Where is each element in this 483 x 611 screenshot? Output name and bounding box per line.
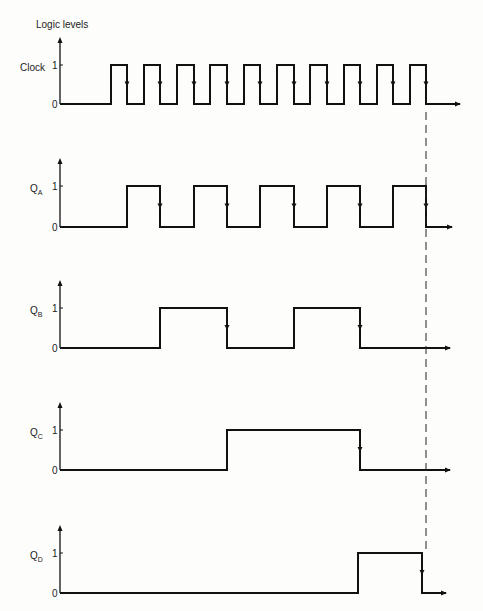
y-axis-title: Logic levels bbox=[36, 19, 88, 30]
signal-label: QC bbox=[30, 427, 43, 440]
signal-label: QD bbox=[30, 550, 43, 563]
arrow-up-icon bbox=[58, 158, 63, 164]
falling-edge-arrow-icon bbox=[358, 447, 363, 452]
signal-label: Clock bbox=[20, 62, 46, 73]
signal-qb: 10QB bbox=[30, 280, 451, 354]
arrow-right-icon bbox=[441, 591, 447, 596]
arrow-up-icon bbox=[58, 525, 63, 531]
falling-edge-arrow-icon bbox=[225, 204, 230, 209]
tick-0: 0 bbox=[52, 343, 58, 354]
falling-edge-arrow-icon bbox=[391, 82, 396, 87]
tick-0: 0 bbox=[52, 222, 58, 233]
signal-qd: 10QD bbox=[30, 525, 447, 599]
waveform bbox=[60, 186, 452, 227]
falling-edge-arrow-icon bbox=[125, 82, 130, 87]
falling-edge-arrow-icon bbox=[292, 204, 297, 209]
timing-diagram: Logic levels10Clock10QA10QB10QC10QD bbox=[0, 0, 483, 611]
arrow-right-icon bbox=[445, 468, 451, 473]
falling-edge-arrow-icon bbox=[258, 82, 263, 87]
tick-1: 1 bbox=[52, 548, 58, 559]
arrow-up-icon bbox=[58, 280, 63, 286]
tick-1: 1 bbox=[52, 60, 58, 71]
falling-edge-arrow-icon bbox=[292, 82, 297, 87]
arrow-right-icon bbox=[445, 346, 451, 351]
falling-edge-arrow-icon bbox=[358, 82, 363, 87]
tick-0: 0 bbox=[52, 465, 58, 476]
tick-1: 1 bbox=[52, 303, 58, 314]
waveform bbox=[60, 430, 450, 470]
falling-edge-arrow-icon bbox=[225, 325, 230, 330]
signal-label: QB bbox=[30, 305, 43, 318]
signal-clock: 10Clock bbox=[20, 37, 461, 110]
falling-edge-arrow-icon bbox=[225, 82, 230, 87]
falling-edge-arrow-icon bbox=[424, 82, 429, 87]
falling-edge-arrow-icon bbox=[358, 325, 363, 330]
waveform bbox=[60, 308, 450, 348]
tick-1: 1 bbox=[52, 181, 58, 192]
signal-label: QA bbox=[30, 183, 43, 196]
falling-edge-arrow-icon bbox=[358, 204, 363, 209]
falling-edge-arrow-icon bbox=[158, 82, 163, 87]
falling-edge-arrow-icon bbox=[420, 570, 425, 575]
falling-edge-arrow-icon bbox=[158, 204, 163, 209]
tick-0: 0 bbox=[52, 588, 58, 599]
tick-1: 1 bbox=[52, 425, 58, 436]
waveform bbox=[60, 553, 446, 593]
arrow-up-icon bbox=[58, 402, 63, 408]
falling-edge-arrow-icon bbox=[192, 82, 197, 87]
signal-qc: 10QC bbox=[30, 402, 451, 476]
signal-qa: 10QA bbox=[30, 158, 453, 233]
arrow-right-icon bbox=[447, 225, 453, 230]
tick-0: 0 bbox=[52, 99, 58, 110]
falling-edge-arrow-icon bbox=[325, 82, 330, 87]
arrow-up-icon bbox=[58, 37, 63, 43]
arrow-right-icon bbox=[455, 102, 461, 107]
